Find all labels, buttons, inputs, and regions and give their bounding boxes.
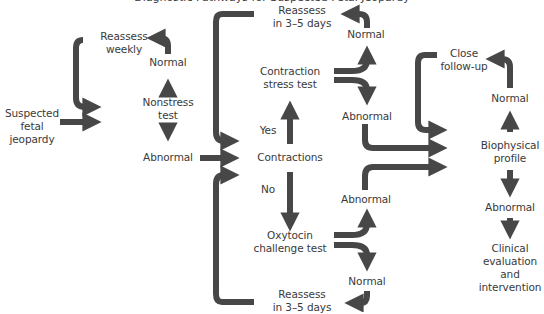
- node-oct-reassess: Reassess in 3–5 days: [273, 288, 332, 314]
- label-line: in 3–5 days: [273, 17, 332, 30]
- arrow-oct-abnormal-to-bpp: [365, 167, 438, 190]
- node-nst-normal: Normal: [149, 56, 186, 69]
- label-line: Suspected: [5, 107, 59, 120]
- label-line: Oxytocin: [253, 229, 326, 242]
- node-biophysical-profile: Biophysical profile: [481, 139, 540, 165]
- arrow-normal-to-weekly: [156, 38, 168, 54]
- node-nonstress-test: Nonstress test: [142, 96, 193, 122]
- arrow-cst-to-abnormal: [334, 80, 367, 96]
- arrow-cst-normal-to-reassess: [350, 14, 367, 28]
- label-line: weekly: [100, 43, 147, 56]
- node-nst-abnormal: Abnormal: [143, 151, 193, 164]
- arrow-weekly-loop: [76, 40, 92, 107]
- label-line: test: [142, 109, 193, 122]
- label-line: jeopardy: [5, 133, 59, 146]
- arrow-oct-to-abnormal: [334, 218, 367, 235]
- arrow-close-followup-loop: [418, 55, 438, 130]
- node-clinical-evaluation: Clinical evaluation and intervention: [479, 242, 542, 294]
- node-oxytocin-challenge-test: Oxytocin challenge test: [253, 229, 326, 255]
- node-suspected-fetal-jeopardy: Suspected fetal jeopardy: [5, 107, 59, 146]
- node-oct-normal: Normal: [348, 275, 385, 288]
- node-bpp-abnormal: Abnormal: [485, 201, 535, 214]
- arrow-oct-reassess-loop: [216, 175, 254, 302]
- node-cst-normal: Normal: [347, 28, 384, 41]
- label-line: challenge test: [253, 242, 326, 255]
- label-line: stress test: [260, 78, 320, 91]
- label-line: and: [479, 268, 542, 281]
- node-bpp-normal: Normal: [491, 92, 528, 105]
- arrow-bpp-normal-to-close: [495, 59, 510, 88]
- arrow-cst-reassess-loop: [216, 14, 254, 141]
- arrow-oct-to-normal: [334, 245, 367, 262]
- arrow-cst-to-normal: [334, 55, 367, 71]
- label-line: Close: [440, 47, 487, 60]
- label-yes: Yes: [260, 124, 277, 137]
- label-line: follow-up: [440, 60, 487, 73]
- node-close-follow-up: Close follow-up: [440, 47, 487, 73]
- label-line: Contraction: [260, 65, 320, 78]
- label-no: No: [261, 183, 275, 196]
- label-line: fetal: [5, 120, 59, 133]
- node-contraction-stress-test: Contraction stress test: [260, 65, 320, 91]
- arrow-oct-normal-to-reassess: [354, 291, 367, 303]
- label-line: intervention: [479, 281, 542, 294]
- label-line: Reassess: [273, 288, 332, 301]
- label-line: in 3–5 days: [273, 301, 332, 314]
- node-cst-reassess: Reassess in 3–5 days: [273, 4, 332, 30]
- node-cst-abnormal: Abnormal: [342, 110, 392, 123]
- node-contractions: Contractions: [257, 151, 322, 164]
- label-line: evaluation: [479, 255, 542, 268]
- node-oct-abnormal: Abnormal: [341, 193, 391, 206]
- label-line: Clinical: [479, 242, 542, 255]
- label-line: Nonstress: [142, 96, 193, 109]
- label-line: Reassess: [100, 30, 147, 43]
- label-line: profile: [481, 152, 540, 165]
- label-line: Reassess: [273, 4, 332, 17]
- label-line: Biophysical: [481, 139, 540, 152]
- node-reassess-weekly: Reassess weekly: [100, 30, 147, 56]
